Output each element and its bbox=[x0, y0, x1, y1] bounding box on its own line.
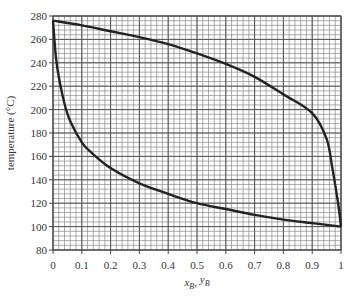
x-tick-label: 0.5 bbox=[190, 259, 204, 271]
y-tick-label: 280 bbox=[31, 10, 48, 22]
x-axis-title: xB, yB bbox=[183, 273, 209, 291]
x-tick-label: 0.7 bbox=[248, 259, 262, 271]
x-tick-label: 0.6 bbox=[219, 259, 233, 271]
y-tick-label: 260 bbox=[31, 33, 48, 45]
y-axis-title: temperature (°C) bbox=[4, 95, 17, 170]
y-tick-label: 180 bbox=[31, 127, 48, 139]
x-tick-label: 0 bbox=[50, 259, 56, 271]
y-tick-label: 120 bbox=[31, 197, 48, 209]
y-tick-label: 240 bbox=[31, 57, 48, 69]
y-tick-label: 100 bbox=[31, 221, 48, 233]
x-tick-label: 0.1 bbox=[75, 259, 89, 271]
y-tick-label: 200 bbox=[31, 104, 48, 116]
y-tick-label: 220 bbox=[31, 80, 48, 92]
x-tick-label: 0.2 bbox=[104, 259, 118, 271]
x-tick-label: 0.4 bbox=[161, 259, 175, 271]
x-tick-label: 0.8 bbox=[277, 259, 291, 271]
y-axis-ticks: 80100120140160180200220240260280 bbox=[31, 10, 54, 256]
x-axis-ticks: 00.10.20.30.40.50.60.70.80.91 bbox=[50, 250, 344, 271]
y-tick-label: 160 bbox=[31, 150, 48, 162]
grid-major bbox=[53, 16, 341, 250]
x-tick-label: 1 bbox=[338, 259, 344, 271]
y-tick-label: 140 bbox=[31, 174, 48, 186]
phase-diagram-chart: 80100120140160180200220240260280 00.10.2… bbox=[0, 0, 349, 298]
x-tick-label: 0.9 bbox=[305, 259, 319, 271]
y-tick-label: 80 bbox=[36, 244, 48, 256]
x-tick-label: 0.3 bbox=[133, 259, 147, 271]
